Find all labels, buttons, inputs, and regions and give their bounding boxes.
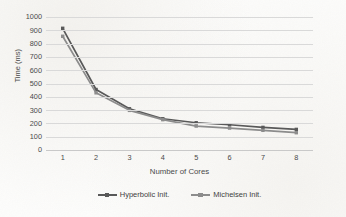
- y-tick-label: 400: [30, 93, 42, 100]
- legend-label: Hyperbolic Init.: [120, 191, 170, 199]
- gridline: [46, 70, 313, 71]
- y-axis-tick-labels: 10009008007006005004003002001000: [0, 17, 42, 150]
- legend-marker-icon: [198, 193, 203, 198]
- data-point-marker: [295, 131, 298, 134]
- data-point-marker: [295, 128, 298, 131]
- x-tick-label: 1: [55, 154, 71, 161]
- y-tick-label: 200: [30, 120, 42, 127]
- data-point-marker: [194, 124, 197, 127]
- y-tick-label: 800: [30, 40, 42, 47]
- x-axis-tick-labels: 12345678: [46, 154, 313, 166]
- x-tick-label: 6: [222, 154, 238, 161]
- legend-label: Michelsen Init.: [213, 191, 261, 199]
- gridline: [46, 30, 313, 31]
- x-axis-title: Number of Cores: [46, 168, 313, 176]
- y-tick-label: 900: [30, 27, 42, 34]
- data-point-marker: [94, 91, 97, 94]
- x-tick-label: 4: [155, 154, 171, 161]
- legend-entry[interactable]: Michelsen Init.: [191, 191, 261, 199]
- plot-area: [46, 17, 313, 150]
- chart-legend: Hyperbolic Init.Michelsen Init.: [46, 191, 313, 199]
- y-tick-label: 600: [30, 67, 42, 74]
- x-tick-label: 3: [121, 154, 137, 161]
- chart-page: Time (ms) 100090080070060050040030020010…: [0, 0, 346, 217]
- y-tick-label: 1000: [26, 13, 42, 20]
- gridline: [46, 44, 313, 45]
- data-point-marker: [161, 118, 164, 121]
- gridline: [46, 150, 313, 151]
- data-point-marker: [228, 126, 231, 129]
- gridline: [46, 137, 313, 138]
- y-tick-label: 700: [30, 53, 42, 60]
- data-point-marker: [61, 35, 64, 38]
- x-tick-label: 8: [288, 154, 304, 161]
- x-tick-label: 7: [255, 154, 271, 161]
- y-tick-label: 0: [38, 146, 42, 153]
- legend-entry[interactable]: Hyperbolic Init.: [98, 191, 170, 199]
- gridline: [46, 123, 313, 124]
- legend-swatch-icon: [191, 191, 210, 198]
- data-point-marker: [261, 126, 264, 129]
- x-tick-label: 2: [88, 154, 104, 161]
- gridline: [46, 110, 313, 111]
- y-tick-label: 100: [30, 133, 42, 140]
- series-1: [61, 27, 298, 131]
- x-tick-label: 5: [188, 154, 204, 161]
- data-point-marker: [261, 129, 264, 132]
- gridline: [46, 57, 313, 58]
- legend-marker-icon: [105, 193, 110, 198]
- gridline: [46, 17, 313, 18]
- y-tick-label: 500: [30, 80, 42, 87]
- gridline: [46, 84, 313, 85]
- y-tick-label: 300: [30, 107, 42, 114]
- legend-swatch-icon: [98, 191, 117, 198]
- gridline: [46, 97, 313, 98]
